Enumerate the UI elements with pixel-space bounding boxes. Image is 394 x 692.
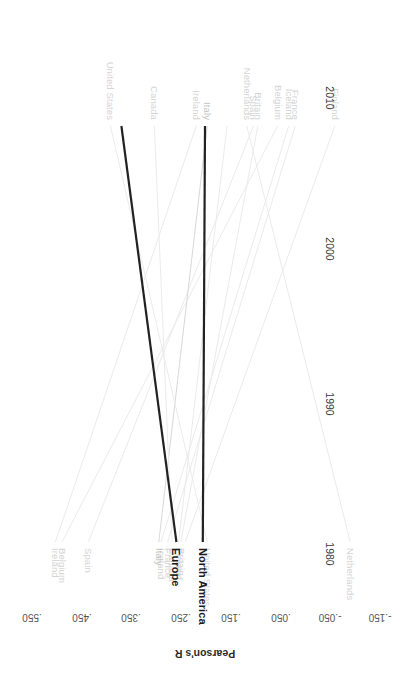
year-label: 2010 bbox=[324, 86, 336, 109]
series-line bbox=[168, 126, 296, 542]
year-label: 1990 bbox=[324, 392, 336, 415]
series-line bbox=[110, 126, 207, 542]
value-tick-label: -.150 bbox=[369, 612, 392, 623]
value-tick-label: .150 bbox=[221, 612, 240, 623]
axis-title-text: Pearson's R bbox=[175, 648, 235, 660]
year-label: 1980 bbox=[324, 542, 336, 565]
value-tick-label: .350 bbox=[122, 612, 141, 623]
series-endpoint-label: Ireland bbox=[191, 90, 202, 120]
series-endpoint-label: United States bbox=[105, 62, 116, 120]
series-line bbox=[185, 126, 335, 542]
year-label: 2000 bbox=[324, 237, 336, 260]
series-line bbox=[203, 126, 205, 542]
series-line bbox=[55, 126, 196, 542]
series-lines bbox=[29, 54, 359, 614]
series-line bbox=[161, 126, 289, 542]
value-tick-label: .550 bbox=[22, 612, 41, 623]
series-line bbox=[88, 126, 253, 542]
rotated-plot-container: FinlandFranceFranceIcelandIcelandBelgium… bbox=[29, 54, 359, 614]
series-line bbox=[121, 126, 176, 542]
value-tick-label: -.050 bbox=[319, 612, 342, 623]
value-tick-label: .250 bbox=[171, 612, 190, 623]
series-endpoint-label: Netherlands bbox=[345, 548, 356, 600]
series-endpoint-label: Italy bbox=[153, 548, 164, 566]
series-endpoint-label: North America bbox=[197, 548, 209, 625]
value-tick-label: .450 bbox=[72, 612, 91, 623]
series-endpoint-label: Europe bbox=[170, 548, 182, 587]
series-endpoint-label: Netherlands bbox=[241, 68, 252, 120]
series-endpoint-label: Belgium bbox=[272, 85, 283, 120]
series-endpoint-label: Spain bbox=[83, 548, 94, 573]
plot-area: FinlandFranceFranceIcelandIcelandBelgium… bbox=[29, 54, 359, 614]
series-endpoint-label: Ireland bbox=[50, 548, 61, 578]
series-endpoint-label: Italy bbox=[202, 102, 213, 120]
chart-figure: FinlandFranceFranceIcelandIcelandBelgium… bbox=[0, 0, 394, 692]
series-endpoint-label: Iceland bbox=[283, 89, 294, 120]
value-tick-label: .050 bbox=[271, 612, 290, 623]
series-endpoint-label: Canada bbox=[149, 86, 160, 120]
series-line bbox=[247, 126, 350, 542]
series-line bbox=[159, 126, 207, 542]
